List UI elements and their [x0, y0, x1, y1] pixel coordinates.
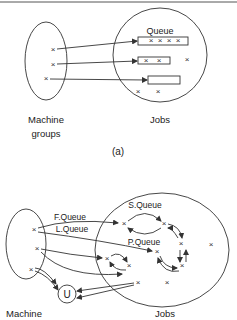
- machine-cross: ×: [51, 45, 56, 54]
- job-cross: ×: [136, 278, 141, 287]
- arrow-to-queue-2: [57, 61, 137, 64]
- jobs-ellipse: [95, 193, 229, 307]
- job-cross: ×: [162, 219, 167, 228]
- machine-cross: ×: [29, 265, 34, 274]
- job-cross: ×: [165, 278, 170, 287]
- job-cross: ×: [180, 261, 185, 270]
- jobs-label: Jobs: [155, 308, 175, 319]
- queue-label: Queue: [146, 26, 173, 36]
- job-cross: ×: [176, 36, 181, 45]
- machine-cross: ×: [44, 74, 49, 83]
- machine-to-job-arrow: [41, 249, 102, 258]
- job-cross: ×: [136, 87, 141, 96]
- queue-link-arrow: [168, 228, 178, 238]
- job-cross: ×: [144, 56, 149, 65]
- machine-groups-label-2: groups: [31, 128, 60, 139]
- job-cross: ×: [179, 239, 184, 248]
- job-cross: ×: [167, 36, 172, 45]
- job-cross: ×: [156, 87, 161, 96]
- machine-cross: ×: [32, 225, 37, 234]
- job-cross: ×: [122, 219, 127, 228]
- p-queue-label: P.Queue: [128, 237, 161, 247]
- job-cross: ×: [105, 254, 110, 263]
- s-queue-loop-arrow: [128, 214, 161, 222]
- machine-ellipse: [6, 209, 46, 279]
- f-queue-label: F.Queue: [54, 212, 86, 222]
- small-loop-arrow: [110, 262, 126, 270]
- job-cross: ×: [149, 36, 154, 45]
- arrow-to-queue-1: [57, 41, 137, 49]
- queue-box-3: [148, 76, 180, 84]
- jobs-label: Jobs: [150, 114, 170, 125]
- job-cross: ×: [185, 55, 190, 64]
- u-node-label: U: [63, 289, 70, 300]
- job-cross: ×: [158, 36, 163, 45]
- machine-groups-ellipse: [25, 22, 67, 100]
- job-cross: ×: [157, 56, 162, 65]
- l-queue-label: L.Queue: [56, 224, 89, 234]
- job-cross: ×: [127, 261, 132, 270]
- diagram-a: Queue × × × × × × × × × × × × Machine gr…: [25, 8, 207, 157]
- machine-cross: ×: [35, 244, 40, 253]
- p-queue-loop-arrow: [158, 258, 179, 271]
- small-loop-arrow: [111, 254, 127, 262]
- queue-link-arrow: [168, 224, 182, 238]
- machine-label: Machine: [6, 308, 42, 319]
- s-queue-label: S.Queue: [128, 200, 162, 210]
- job-cross: ×: [209, 240, 214, 249]
- machine-cross: ×: [51, 60, 56, 69]
- queue-box-1: [138, 37, 188, 45]
- s-queue-loop-arrow: [128, 228, 161, 234]
- machine-groups-label-1: Machine: [28, 114, 64, 125]
- job-cross: ×: [155, 247, 160, 256]
- diagram-canvas: Queue × × × × × × × × × × × × Machine gr…: [0, 0, 237, 320]
- diagram-b: U F.Queue L.Queue S.Queue P.Queue × × × …: [6, 193, 229, 319]
- caption-a: (a): [112, 146, 124, 157]
